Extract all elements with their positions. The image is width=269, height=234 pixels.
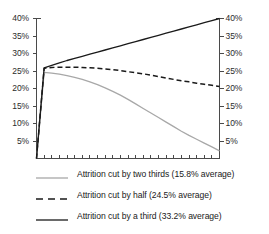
y-axis-right-tick-label: 40% [226, 14, 254, 23]
y-axis-left-tick-label: 25% [3, 67, 29, 76]
y-axis-right-tick-label: 5% [226, 137, 254, 146]
chart-legend: Attrition cut by two thirds (15.8% avera… [0, 163, 269, 226]
y-axis-right-tick-label: 10% [226, 119, 254, 128]
legend-item[interactable]: Attrition cut by half (24.5% average) [0, 184, 269, 205]
y-axis-right-tick-label: 15% [226, 102, 254, 111]
y-axis-right-tick-label: 30% [226, 49, 254, 58]
legend-item-label: Attrition cut by two thirds (15.8% avera… [77, 169, 234, 179]
y-axis-left-tick-label: 20% [3, 84, 29, 93]
legend-item-label: Attrition cut by half (24.5% average) [77, 190, 212, 200]
legend-swatch-icon [36, 211, 68, 221]
legend-item[interactable]: Attrition cut by a third (33.2% average) [0, 205, 269, 226]
legend-swatch-icon [36, 169, 68, 179]
y-axis-left-tick-label: 15% [3, 102, 29, 111]
y-axis-right-tick-label: 20% [226, 84, 254, 93]
legend-item-label: Attrition cut by a third (33.2% average) [77, 211, 222, 221]
y-axis-left-tick-label: 10% [3, 119, 29, 128]
y-axis-right-tick-label: 35% [226, 32, 254, 41]
series-line-1 [37, 72, 220, 158]
chart-figure: 40%35%30%25%20%15%10%5% 40%35%30%25%20%1… [0, 0, 269, 234]
y-axis-left-tick-label: 5% [3, 137, 29, 146]
legend-swatch-icon [36, 190, 68, 200]
series-line-2 [37, 67, 220, 158]
y-axis-left-tick-label: 35% [3, 32, 29, 41]
y-axis-right-tick-label: 25% [226, 67, 254, 76]
legend-item[interactable]: Attrition cut by two thirds (15.8% avera… [0, 163, 269, 184]
chart-axes [33, 19, 224, 159]
chart-series-group [37, 19, 220, 159]
y-axis-left-tick-label: 30% [3, 49, 29, 58]
y-axis-left-tick-label: 40% [3, 14, 29, 23]
